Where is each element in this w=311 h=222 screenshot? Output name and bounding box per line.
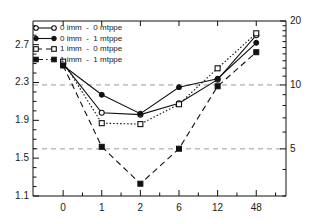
data-point-2-3 [177, 102, 182, 107]
ytick-label-right-5: 5 [290, 144, 311, 154]
chart-container: 1.11.51.92.32.75102001261248 0 imm - 0 m… [0, 0, 311, 222]
legend-marker-3-0 [34, 57, 39, 62]
data-point-3-1 [99, 144, 104, 149]
data-point-1-3 [177, 85, 182, 90]
xtick-label-12: 12 [206, 203, 230, 213]
xtick-label-0: 0 [51, 203, 75, 213]
data-point-1-2 [138, 111, 143, 116]
ytick-label-left-1.5: 1.5 [0, 153, 29, 163]
ytick-label-left-2.7: 2.7 [0, 40, 29, 50]
legend-marker-1-0 [34, 36, 39, 41]
data-point-3-0 [61, 63, 66, 68]
ytick-label-left-1.9: 1.9 [0, 115, 29, 125]
series-line-3 [63, 52, 256, 184]
data-point-2-5 [254, 31, 259, 36]
gridlines-group [33, 85, 286, 149]
xtick-label-6: 6 [167, 203, 191, 213]
legend-marker-1-1 [52, 36, 57, 41]
xtick-label-2: 2 [128, 203, 152, 213]
ytick-label-left-2.3: 2.3 [0, 77, 29, 87]
data-point-1-5 [254, 40, 259, 45]
legend-marker-0-0 [34, 26, 39, 31]
legend-label-2: 1 imm - 0 mtppe [60, 45, 122, 53]
xtick-label-1: 1 [90, 203, 114, 213]
data-point-1-4 [215, 76, 220, 81]
data-point-3-5 [254, 50, 259, 55]
plot-canvas [0, 0, 311, 222]
legend-label-1: 0 imm - 1 mtppe [60, 35, 122, 43]
legend-markers-group [34, 26, 57, 62]
data-point-0-1 [99, 110, 104, 115]
data-point-3-2 [138, 181, 143, 186]
data-point-2-1 [99, 121, 104, 126]
data-point-2-4 [215, 66, 220, 71]
data-point-3-4 [215, 84, 220, 89]
data-point-3-3 [177, 146, 182, 151]
ytick-label-right-20: 20 [290, 16, 311, 26]
legend-label-3: 1 imm - 1 mtppe [60, 56, 122, 64]
xtick-label-48: 48 [244, 203, 268, 213]
legend-label-0: 0 imm - 0 mtppe [60, 24, 122, 32]
legend-marker-2-1 [52, 47, 57, 52]
legend-marker-0-1 [52, 26, 57, 31]
ytick-label-right-10: 10 [290, 80, 311, 90]
legend-marker-3-1 [52, 57, 57, 62]
ytick-label-left-1.1: 1.1 [0, 191, 29, 201]
data-point-2-2 [138, 122, 143, 127]
legend-marker-2-0 [34, 47, 39, 52]
data-point-1-1 [99, 92, 104, 97]
